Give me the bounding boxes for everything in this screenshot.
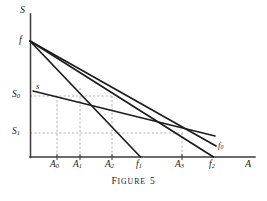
y-axis-label: S	[20, 5, 25, 15]
x-tick-label-a0-sub: 0	[56, 162, 59, 169]
axes	[30, 14, 255, 158]
x-tick-label-a2: A2	[105, 160, 114, 170]
figure-caption-number: 5	[150, 176, 156, 186]
x-intercept-label-f2-sub: 2	[212, 162, 215, 169]
x-intercept-label-f1: f1	[136, 160, 142, 170]
curve-demand-f2	[30, 41, 214, 157]
x-intercept-label-f1-sub: 1	[139, 162, 142, 169]
x-tick-label-a0: A0	[50, 160, 59, 170]
figure-caption-word: FIGURE	[111, 176, 146, 186]
y-tick-label-s1-sub: 1	[17, 129, 20, 136]
y-tick-label-s1: S1	[12, 127, 20, 137]
figure-caption: FIGURE5	[0, 176, 267, 186]
plot-canvas	[0, 0, 267, 201]
x-tick-label-a3-sub: 3	[181, 162, 184, 169]
x-intercept-label-f2: f2	[209, 160, 215, 170]
curve-s-label: s	[36, 82, 39, 91]
figure-5-container: S A f s f0 S0 S1 A0 A1 A2 A3 f1 f2 FIGUR…	[0, 0, 267, 201]
x-tick-label-a1-sub: 1	[79, 162, 82, 169]
x-tick-label-a1: A1	[73, 160, 82, 170]
curve-demand-f0	[30, 41, 216, 146]
curve-f0-label-sub: 0	[220, 144, 223, 150]
data-curves	[30, 41, 216, 157]
curve-f0-label: f0	[218, 141, 223, 151]
x-axis-label: A	[245, 159, 251, 169]
x-tick-label-a3: A3	[175, 160, 184, 170]
y-tick-label-s0-sub: 0	[17, 92, 20, 99]
y-tick-label-s0: S0	[12, 90, 20, 100]
curve-demand-f1	[30, 41, 141, 157]
point-f-label: f	[19, 35, 22, 45]
x-tick-label-a2-sub: 2	[111, 162, 114, 169]
